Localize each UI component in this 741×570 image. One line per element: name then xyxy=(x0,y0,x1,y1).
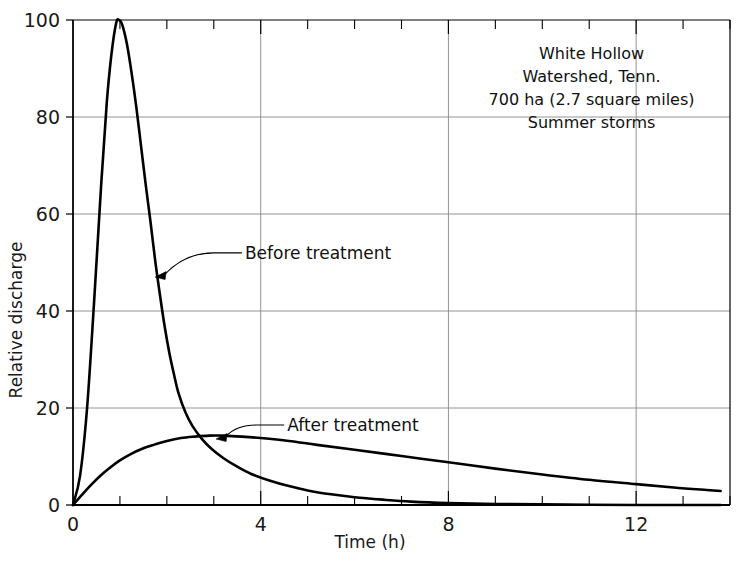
x-tick-label: 0 xyxy=(67,513,79,535)
y-tick-label: 0 xyxy=(48,494,60,516)
annotation-line: Summer storms xyxy=(528,113,656,132)
annotation-line: White Hollow xyxy=(539,44,644,63)
annotation-line: Watershed, Tenn. xyxy=(522,67,660,86)
y-axis-title: Relative discharge xyxy=(6,242,26,399)
chart-canvas: 02040608010004812 Before treatmentAfter … xyxy=(0,0,741,570)
series-label-1: Before treatment xyxy=(245,243,392,263)
y-tick-label: 20 xyxy=(36,397,60,419)
y-tick-label: 60 xyxy=(36,203,60,225)
y-tick-label: 40 xyxy=(36,300,60,322)
y-tick-label: 100 xyxy=(24,9,60,31)
hydrograph-figure: 02040608010004812 Before treatmentAfter … xyxy=(0,0,741,570)
x-tick-label: 12 xyxy=(624,513,648,535)
series-label-2: After treatment xyxy=(287,415,419,435)
x-axis-title: Time (h) xyxy=(333,532,405,552)
annotation-line: 700 ha (2.7 square miles) xyxy=(489,90,695,109)
y-tick-label: 80 xyxy=(36,106,60,128)
x-tick-label: 8 xyxy=(442,513,454,535)
x-tick-label: 4 xyxy=(255,513,267,535)
